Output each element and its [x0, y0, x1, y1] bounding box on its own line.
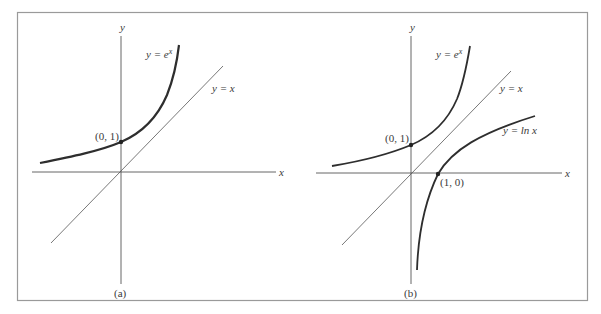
panel-a-point-0-1	[119, 140, 123, 144]
panel-a-point-label: (0, 1)	[95, 130, 119, 143]
figure-exp-ln-graphs: y x y = ex y = x (0, 1) (a) y x y = ex y…	[0, 0, 601, 314]
panel-a-curve-exp	[40, 45, 179, 163]
figure-frame	[18, 13, 588, 301]
panel-a-identity-label: y = x	[211, 82, 235, 94]
panel-b-y-axis-label: y	[409, 21, 415, 33]
panel-b-point-1-0-label: (1, 0)	[440, 176, 464, 189]
panel-b-caption: (b)	[404, 287, 417, 300]
panel-a-exp-label-sup: x	[168, 47, 173, 56]
panel-b-x-axis-label: x	[564, 167, 570, 179]
panel-a-y-axis-label: y	[119, 21, 125, 33]
panel-b-exp-label-sup: x	[458, 47, 463, 56]
panel-b-exp-label: y = ex	[435, 47, 463, 60]
panel-b: y x y = ex y = x y = ln x (0, 1) (1, 0) …	[316, 21, 570, 300]
panel-b-identity-label: y = x	[499, 82, 523, 94]
panel-a-x-axis-label: x	[278, 166, 284, 178]
panel-b-exp-label-base: y = e	[435, 48, 459, 60]
panel-a-exp-label-base: y = e	[145, 48, 169, 60]
panel-a: y x y = ex y = x (0, 1) (a)	[32, 21, 284, 300]
panel-a-caption: (a)	[114, 287, 127, 300]
diagram-canvas: y x y = ex y = x (0, 1) (a) y x y = ex y…	[0, 0, 601, 314]
panel-a-exp-label: y = ex	[145, 47, 173, 60]
panel-b-point-0-1	[409, 143, 413, 147]
panel-b-point-0-1-label: (0, 1)	[385, 132, 409, 145]
panel-b-curve-ln	[417, 116, 535, 270]
panel-b-curve-exp	[332, 46, 470, 166]
panel-b-ln-label: y = ln x	[502, 124, 537, 136]
